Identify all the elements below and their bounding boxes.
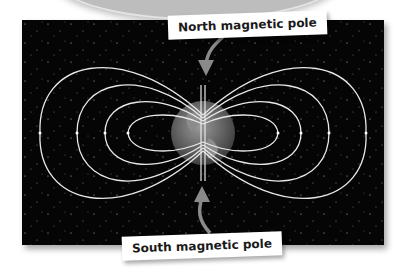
south-magnetic-pole-label: South magnetic pole: [122, 231, 283, 261]
magnetic-field-panel: [22, 20, 384, 245]
earth: [171, 101, 235, 165]
field-lines-diagram: [22, 20, 384, 245]
